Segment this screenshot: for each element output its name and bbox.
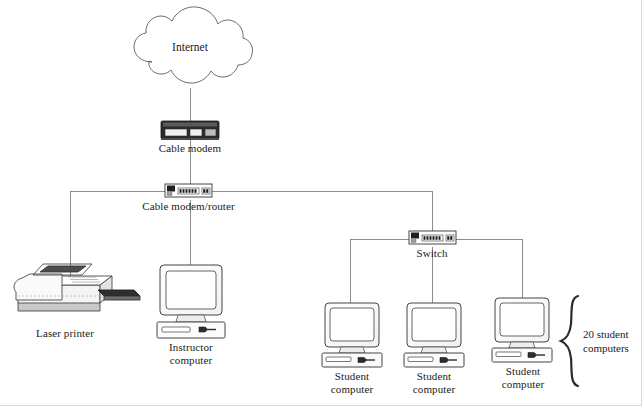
cable-modem-router-label: Cable modem/router: [126, 200, 251, 213]
cable-modem-label: Cable modem: [135, 142, 245, 155]
diagram-canvas: [0, 0, 642, 406]
connection-lines: [70, 88, 522, 303]
student-count-annotation: 20 student computers: [583, 327, 642, 355]
student-computer-2-label: Student computer: [389, 370, 479, 396]
desktop-computer-icon: [404, 303, 464, 367]
student-computer-1-label: Student computer: [307, 370, 397, 396]
desktop-computer-icon: [157, 265, 225, 338]
desktop-computer-icon: [492, 298, 552, 362]
student-computer-3-label: Student computer: [478, 365, 568, 391]
instructor-computer-label: Instructor computer: [146, 341, 236, 367]
switch-label: Switch: [392, 247, 472, 260]
internet-label: Internet: [160, 41, 220, 53]
laser-printer-label: Laser printer: [15, 327, 115, 340]
router-icon: [165, 184, 212, 197]
cable-modem-icon: [161, 121, 219, 140]
switch-icon: [409, 231, 456, 244]
network-diagram: Internet Cable modem Cable modem/router …: [0, 0, 642, 406]
desktop-computer-icon: [322, 303, 382, 367]
laser-printer-icon: [14, 264, 140, 311]
